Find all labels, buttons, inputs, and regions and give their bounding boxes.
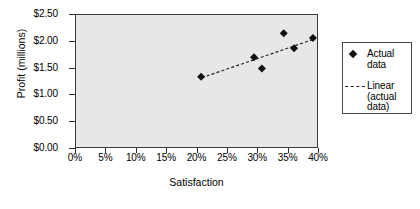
y-tick-label: $2.50	[33, 9, 58, 19]
x-tick-mark	[75, 148, 76, 153]
data-point	[197, 73, 205, 81]
x-tick-label: 40%	[298, 152, 338, 163]
legend-entry-linear-trendline: Linear (actual data)	[343, 81, 413, 113]
diamond-marker-icon	[343, 49, 367, 60]
x-axis: 0%5%10%15%20%25%30%35%40%	[0, 152, 420, 168]
data-point	[258, 65, 266, 73]
data-point-markers	[197, 29, 317, 80]
x-axis-title: Satisfaction	[75, 176, 318, 188]
y-tick-label: $1.50	[33, 63, 58, 73]
trendline	[202, 39, 314, 78]
x-tick-mark	[257, 148, 258, 153]
y-tick-label: $0.50	[33, 116, 58, 126]
y-tick-label: $1.00	[33, 89, 58, 99]
x-tick-mark	[166, 148, 167, 153]
x-tick-mark	[136, 148, 137, 153]
x-tick-mark	[105, 148, 106, 153]
x-tick-mark	[318, 148, 319, 153]
data-point	[280, 29, 288, 37]
x-tick-mark	[227, 148, 228, 153]
y-axis: $0.00$0.50$1.00$1.50$2.00$2.50	[0, 0, 68, 209]
y-tick-label: $2.00	[33, 36, 58, 46]
legend-label: Linear (actual data)	[367, 81, 396, 113]
x-tick-mark	[197, 148, 198, 153]
dashed-line-icon	[343, 81, 367, 92]
chart-legend: Actual data Linear (actual data)	[342, 42, 412, 114]
legend-label: Actual data	[367, 49, 394, 70]
plot-area	[75, 14, 318, 148]
plot-svg	[76, 15, 319, 149]
y-axis-title: Profit (millions)	[16, 0, 27, 129]
trendline-segment	[202, 39, 314, 78]
legend-entry-actual-data: Actual data	[343, 49, 413, 70]
scatter-chart: $0.00$0.50$1.00$1.50$2.00$2.50 Profit (m…	[0, 0, 420, 209]
x-tick-mark	[288, 148, 289, 153]
